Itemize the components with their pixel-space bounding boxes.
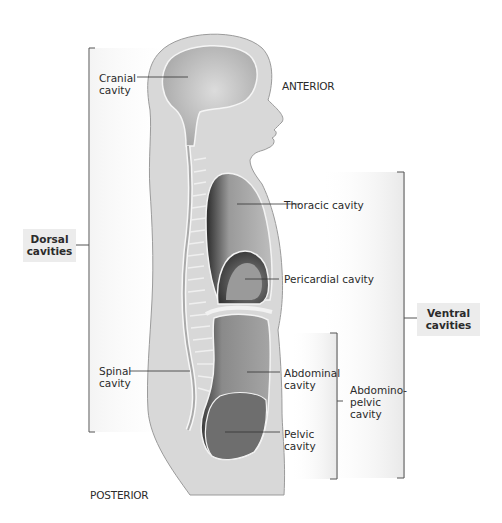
ventral-cavities-label: Ventral cavities: [417, 307, 480, 331]
cranial-cavity-label: Cranial cavity: [99, 72, 136, 96]
thoracic-cavity-label: Thoracic cavity: [284, 199, 364, 211]
posterior-label: POSTERIOR: [90, 489, 148, 501]
abdominopelvic-cavity-label: Abdomino- pelvic cavity: [350, 384, 407, 420]
pericardial-cavity-label: Pericardial cavity: [284, 273, 374, 285]
abdominal-cavity-label: Abdominal cavity: [284, 367, 340, 391]
dorsal-cavities-label: Dorsal cavities: [23, 233, 76, 257]
anterior-label: ANTERIOR: [282, 80, 334, 92]
body-cavities-diagram: ANTERIOR POSTERIOR Cranial cavity Thorac…: [0, 0, 502, 523]
spinal-cavity-label: Spinal cavity: [99, 365, 131, 389]
pelvic-cavity-label: Pelvic cavity: [284, 428, 316, 452]
